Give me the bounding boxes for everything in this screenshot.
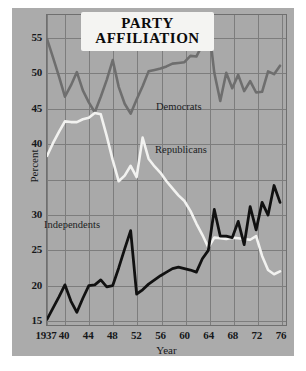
y-tick-label: 50	[31, 66, 42, 78]
chart-figure: 5550454030252015 19374044485256606468727…	[0, 0, 306, 371]
x-tick-label: 72	[252, 329, 263, 341]
line-independents	[47, 186, 280, 320]
y-tick-label: 55	[31, 31, 42, 43]
series-label-independents: Independents	[44, 219, 100, 230]
x-tick-label: 64	[203, 329, 214, 341]
y-tick-label: 45	[31, 102, 42, 114]
series-label-democrats: Democrats	[156, 101, 201, 112]
x-tick-label: 44	[83, 329, 94, 341]
plot-area	[46, 14, 287, 326]
series-label-republicans: Republicans	[155, 144, 207, 155]
y-tick-label: 20	[31, 279, 42, 291]
x-tick-label: 40	[59, 329, 70, 341]
chart-title-line2: AFFILIATION	[83, 31, 212, 46]
x-tick-label: 48	[107, 329, 118, 341]
line-republicans	[47, 113, 280, 274]
chart-title-line1: PARTY	[83, 16, 212, 31]
x-tick-label: 56	[155, 329, 166, 341]
y-axis-title: Percent	[28, 126, 40, 206]
x-tick-label: 68	[227, 329, 238, 341]
x-tick-label: 76	[276, 329, 287, 341]
y-tick-label: 25	[31, 243, 42, 255]
x-tick-label: 52	[131, 329, 142, 341]
x-tick-label: 1937	[35, 329, 56, 341]
x-axis-title: Year	[46, 344, 287, 356]
y-tick-label: 15	[31, 314, 42, 326]
y-tick-label: 30	[31, 208, 42, 220]
chart-title: PARTY AFFILIATION	[81, 12, 214, 51]
series-lines	[47, 15, 286, 325]
x-tick-label: 60	[179, 329, 190, 341]
